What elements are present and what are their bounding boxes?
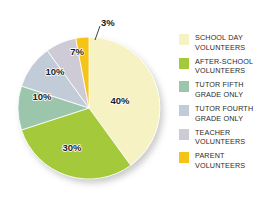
legend-swatch-icon <box>179 152 189 163</box>
legend-item-after-school-volunteers: AFTER-SCHOOL VOLUNTEERS <box>179 57 278 76</box>
legend-item-tutor-fourth-grade-only: TUTOR FOURTH GRADE ONLY <box>179 104 278 123</box>
legend-swatch-icon <box>179 34 189 45</box>
slice-value-label-school-day: 40% <box>110 95 130 106</box>
legend-swatch-icon <box>179 129 189 140</box>
legend-item-parent-volunteers: PARENT VOLUNTEERS <box>179 151 278 170</box>
legend-item-label: TUTOR FOURTH GRADE ONLY <box>195 104 253 123</box>
legend-item-school-day-volunteers: SCHOOL DAY VOLUNTEERS <box>179 33 278 52</box>
slice-value-label-parent: 3% <box>101 17 115 28</box>
pie-chart-plot-area: 40% 30% 10% 10% 7% 3% <box>0 0 180 201</box>
legend-swatch-icon <box>179 81 189 92</box>
pie-slices <box>18 37 160 179</box>
legend-item-label: AFTER-SCHOOL VOLUNTEERS <box>195 57 253 76</box>
legend-item-teacher-volunteers: TEACHER VOLUNTEERS <box>179 128 278 147</box>
slice-value-label-after-school: 30% <box>62 142 82 153</box>
legend-item-label: TEACHER VOLUNTEERS <box>195 128 245 147</box>
legend-item-tutor-fifth-grade-only: TUTOR FIFTH GRADE ONLY <box>179 80 278 99</box>
legend-item-label: SCHOOL DAY VOLUNTEERS <box>195 33 245 52</box>
chart-legend: SCHOOL DAY VOLUNTEERS AFTER-SCHOOL VOLUN… <box>179 33 278 175</box>
pie-chart-figure: 40% 30% 10% 10% 7% 3% SCHOOL DAY VOLUNTE… <box>0 0 278 201</box>
slice-value-label-tutor-fifth: 10% <box>32 91 52 102</box>
legend-item-label: PARENT VOLUNTEERS <box>195 151 245 170</box>
legend-swatch-icon <box>179 105 189 116</box>
slice-value-label-teacher: 7% <box>70 46 84 57</box>
slice-value-label-tutor-fourth: 10% <box>45 66 65 77</box>
legend-swatch-icon <box>179 58 189 69</box>
legend-item-label: TUTOR FIFTH GRADE ONLY <box>195 80 244 99</box>
pie-chart-svg: 40% 30% 10% 10% 7% 3% <box>0 0 180 201</box>
